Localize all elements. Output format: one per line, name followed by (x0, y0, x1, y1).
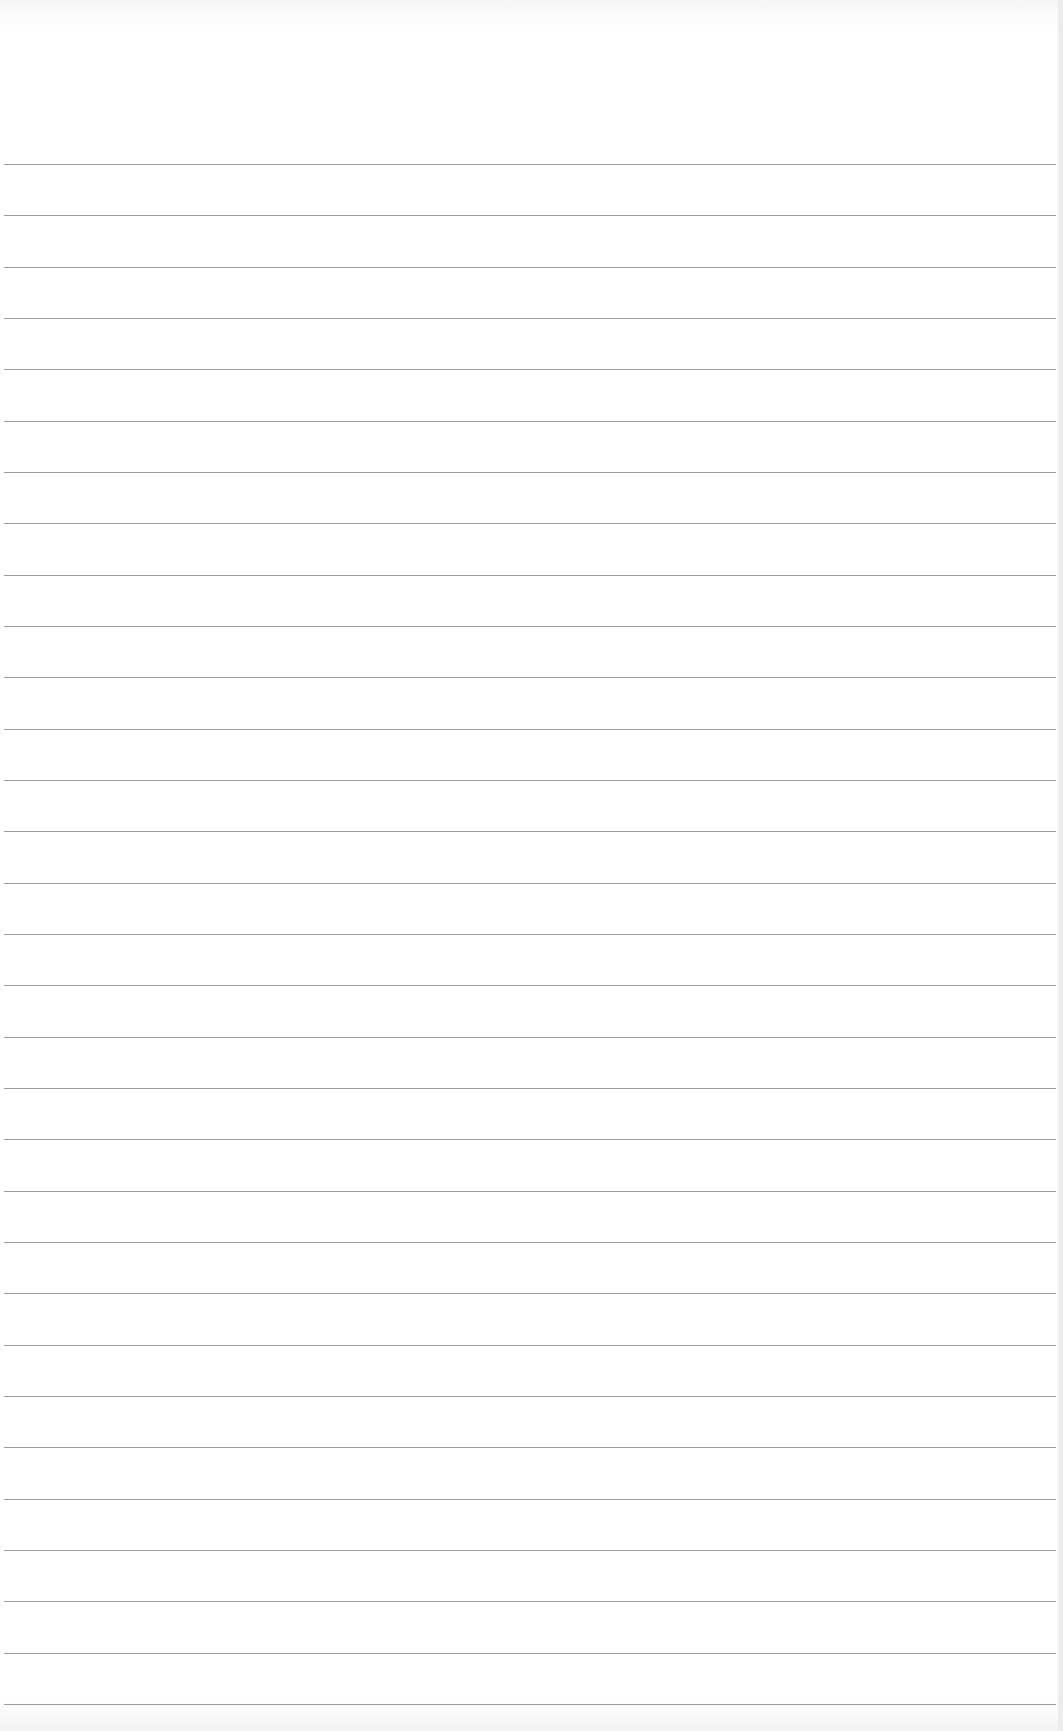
paper-right-edge (1058, 0, 1063, 1731)
ruled-line (4, 985, 1056, 986)
ruled-line (4, 1601, 1056, 1602)
ruled-line (4, 523, 1056, 524)
ruled-line (4, 626, 1056, 627)
lined-paper-sheet (0, 0, 1058, 1731)
ruled-line (4, 1191, 1056, 1192)
ruled-line (4, 421, 1056, 422)
ruled-line (4, 883, 1056, 884)
ruled-line (4, 1396, 1056, 1397)
ruled-line (4, 164, 1056, 165)
ruled-line (4, 780, 1056, 781)
ruled-line (4, 1293, 1056, 1294)
ruled-line (4, 1037, 1056, 1038)
ruled-line (4, 318, 1056, 319)
ruled-line (4, 1345, 1056, 1346)
ruled-line (4, 1653, 1056, 1654)
ruled-line (4, 1139, 1056, 1140)
ruled-line (4, 215, 1056, 216)
ruled-line (4, 1447, 1056, 1448)
ruled-line (4, 472, 1056, 473)
ruled-line (4, 1088, 1056, 1089)
ruled-line (4, 267, 1056, 268)
ruled-line (4, 729, 1056, 730)
ruled-line (4, 677, 1056, 678)
ruled-line (4, 934, 1056, 935)
ruled-line (4, 831, 1056, 832)
ruled-line (4, 1499, 1056, 1500)
ruled-line (4, 1550, 1056, 1551)
ruled-line (4, 575, 1056, 576)
ruled-line (4, 369, 1056, 370)
ruled-line (4, 1704, 1056, 1705)
ruled-line (4, 1242, 1056, 1243)
